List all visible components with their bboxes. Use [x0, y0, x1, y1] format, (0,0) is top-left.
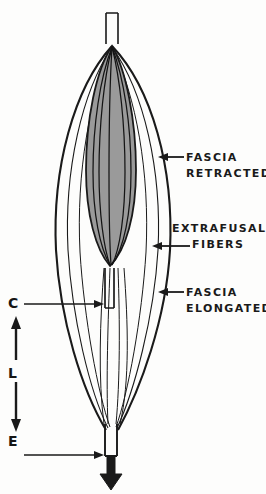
muscle-fascia-diagram: FASCIA RETRACTED EXTRAFUSAL FIBERS FASCI… [0, 0, 266, 494]
leader-arrow-fascia-elongated [158, 288, 184, 296]
lower-tendon [105, 424, 117, 456]
label-fascia-elongated-line2: ELONGATED [186, 302, 266, 315]
label-fascia-elongated: FASCIA ELONGATED [186, 285, 266, 317]
label-fascia-retracted-line1: FASCIA [186, 151, 238, 164]
top-tendon-stub [106, 13, 118, 44]
pull-down-arrow-icon [100, 456, 122, 490]
axis-marker-elongated: E [8, 434, 18, 448]
axis-marker-length: L [8, 366, 17, 380]
label-extrafusal-line2: FIBERS [172, 237, 266, 253]
label-extrafusal-line1: EXTRAFUSAL [172, 222, 266, 235]
label-fascia-retracted: FASCIA RETRACTED [186, 150, 266, 182]
label-fascia-retracted-line2: RETRACTED [186, 167, 266, 180]
label-fascia-elongated-line1: FASCIA [186, 286, 238, 299]
label-extrafusal-fibers: EXTRAFUSAL FIBERS [172, 221, 266, 253]
axis-marker-contracted: C [8, 296, 18, 310]
leader-arrow-e [24, 451, 104, 459]
